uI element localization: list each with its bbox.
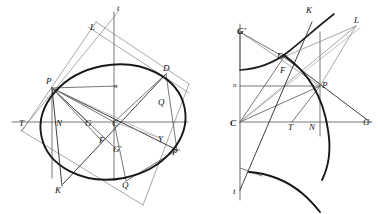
label-n-left: n xyxy=(114,82,118,90)
figure-plate: t L D P n Q T N G C Y F G' P' K Q xyxy=(0,0,378,214)
label-G-right: G xyxy=(363,117,370,127)
label-G-left: G xyxy=(85,118,92,128)
label-C-right: C xyxy=(230,118,237,128)
label-L-left: L xyxy=(89,22,95,32)
line-C-L xyxy=(240,26,356,122)
hyperbola-opposite-branch xyxy=(249,172,320,212)
line-D-Pprime xyxy=(166,74,177,150)
label-Q1-left: Q xyxy=(122,180,129,190)
label-K-left: K xyxy=(54,185,62,195)
label-D-left: D xyxy=(162,63,170,73)
line-C-Y xyxy=(114,122,160,138)
label-F-right: F xyxy=(279,65,286,75)
label-T-left: T xyxy=(19,118,25,128)
label-P-right: P xyxy=(321,80,328,90)
geometry-plate-svg: t L D P n Q T N G C Y F G' P' K Q xyxy=(0,0,378,214)
tangent-parallelogram xyxy=(22,22,189,205)
label-N-right: N xyxy=(308,122,316,132)
label-D-right: D xyxy=(276,51,284,61)
label-t-left: t xyxy=(117,3,120,13)
label-Q2-left: Q xyxy=(158,97,165,107)
label-Pprime-left: P' xyxy=(171,147,180,157)
label-N-left: N xyxy=(55,118,63,128)
tangent-at-D xyxy=(88,27,189,93)
label-Gprime-right: G' xyxy=(237,26,246,36)
figure-right-hyperbola: K L G' D F n P C T N G t xyxy=(230,5,372,212)
line-P-Y xyxy=(52,88,160,138)
figure-right-labels: K L G' D F n P C T N G t xyxy=(230,5,370,196)
label-T-right: T xyxy=(288,122,294,132)
label-P-left: P xyxy=(45,76,52,86)
figure-left-labels: t L D P n Q T N G C Y F G' P' K Q xyxy=(19,3,180,195)
label-Gprime-left: G' xyxy=(113,144,122,154)
label-Y-left: Y xyxy=(158,134,164,144)
line-P-F xyxy=(52,88,102,141)
label-n-right: n xyxy=(233,81,237,89)
label-t-right: t xyxy=(233,186,236,196)
line-P-L xyxy=(320,26,356,86)
line-P-K xyxy=(52,88,62,186)
label-L-right: L xyxy=(353,15,359,25)
label-K-right: K xyxy=(305,5,313,15)
figure-left-ellipse: t L D P n Q T N G C Y F G' P' K Q xyxy=(12,3,196,205)
label-C-left: C xyxy=(112,118,119,128)
label-F-left: F xyxy=(98,135,105,145)
